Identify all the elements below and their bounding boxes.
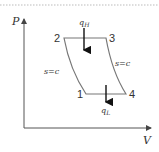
state-2-label: 2 <box>54 32 60 44</box>
process-1-2-label: s=c <box>44 67 60 76</box>
state-1-label: 1 <box>77 88 83 100</box>
process-3-4-label: s=c <box>115 59 131 68</box>
heat-out-label: qL <box>101 106 110 116</box>
state-4-label: 4 <box>129 88 135 100</box>
p-axis-label: P <box>11 15 20 28</box>
state-3-label: 3 <box>109 32 115 44</box>
pv-diagram: P V 2 3 1 4 s=c s=c qH qL <box>0 0 159 152</box>
heat-in-label: qH <box>79 18 90 28</box>
v-axis-label: V <box>143 134 152 147</box>
